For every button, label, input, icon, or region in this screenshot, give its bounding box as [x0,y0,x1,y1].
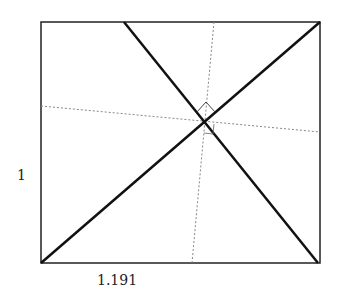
vertical-dotted-line [192,22,214,263]
width-label: 1.191 [97,272,137,288]
horizontal-dotted-line [41,106,320,132]
height-label: 1 [17,167,26,183]
diagonal-line-descending [124,22,318,263]
diagram-canvas: 1 1.191 [0,0,345,295]
diagonal-line-ascending [41,22,320,263]
